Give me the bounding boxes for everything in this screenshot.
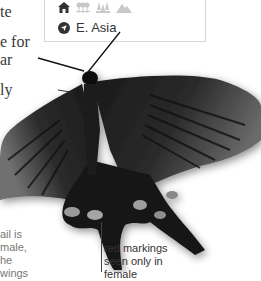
callout-red-markings: red markings seen only in female <box>104 242 168 281</box>
callout-leader-line <box>101 222 102 272</box>
caption-line: female <box>104 268 168 281</box>
caption-line: male, <box>0 241 28 254</box>
callout-tail: ail is male, he wings <box>0 228 28 280</box>
caption-line: ail is <box>0 228 28 241</box>
caption-line: wings <box>0 267 28 280</box>
caption-line: he <box>0 254 28 267</box>
caption-line: red markings <box>104 242 168 255</box>
caption-line: seen only in <box>104 255 168 268</box>
